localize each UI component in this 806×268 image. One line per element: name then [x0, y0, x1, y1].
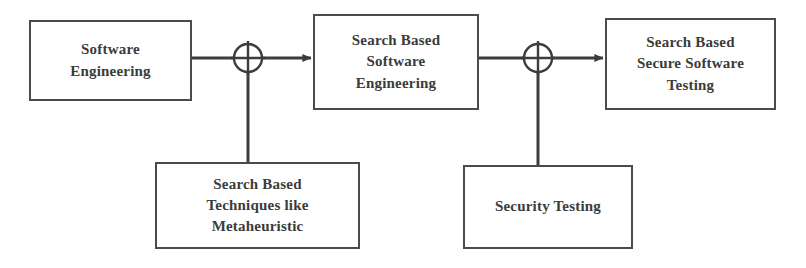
node-security-testing-label: Security Testing: [491, 196, 605, 217]
node-search-based-software-engineering[interactable]: Search Based Software Engineering: [313, 14, 479, 110]
node-search-based-techniques[interactable]: Search Based Techniques like Metaheurist…: [155, 162, 360, 249]
node-search-based-software-engineering-label: Search Based Software Engineering: [348, 30, 444, 94]
block-diagram: Software Engineering Search Based Softwa…: [0, 0, 806, 268]
summing-junction-1-icon: [231, 41, 265, 75]
node-search-based-secure-software-testing-label: Search Based Secure Software Testing: [633, 32, 748, 96]
node-security-testing[interactable]: Security Testing: [463, 165, 633, 249]
node-software-engineering-label: Software Engineering: [66, 39, 155, 82]
node-search-based-techniques-label: Search Based Techniques like Metaheurist…: [202, 174, 312, 238]
node-software-engineering[interactable]: Software Engineering: [29, 20, 192, 101]
node-search-based-secure-software-testing[interactable]: Search Based Secure Software Testing: [605, 18, 776, 110]
summing-junction-2-icon: [521, 41, 555, 75]
